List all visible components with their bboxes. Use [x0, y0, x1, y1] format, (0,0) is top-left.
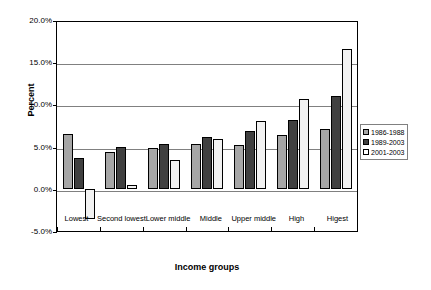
- bar-chart: Percent 20.0%15.0%10.0%5.0%0.0%-5.0% Low…: [0, 0, 431, 290]
- y-axis-tick-mark: [53, 63, 57, 64]
- bar-group: [228, 22, 271, 231]
- x-axis-category-label: Higest: [317, 214, 358, 228]
- x-axis-category-label: High: [276, 214, 317, 228]
- bar-group: [186, 22, 229, 231]
- legend-item[interactable]: 1989-2003: [363, 137, 404, 147]
- legend-item[interactable]: 1986-1988: [363, 127, 404, 137]
- bar-2-4: [256, 121, 266, 189]
- bar-group: [57, 22, 100, 231]
- bar-0-2: [148, 148, 158, 189]
- bar-group: [143, 22, 186, 231]
- x-axis-title: Income groups: [56, 262, 358, 272]
- bar-1-2: [159, 144, 169, 189]
- bar-0-5: [277, 135, 287, 189]
- bar-2-3: [213, 139, 223, 189]
- legend-swatch-icon: [363, 149, 369, 155]
- y-axis-tick-mark: [53, 148, 57, 149]
- y-axis-tick-mark: [53, 190, 57, 191]
- legend-label: 2001-2003: [371, 148, 404, 157]
- legend-swatch-icon: [363, 129, 369, 135]
- bar-0-0: [63, 134, 73, 189]
- y-axis-tick-label: 0.0%: [0, 186, 52, 194]
- bar-0-6: [320, 129, 330, 189]
- y-axis-tick-label: 5.0%: [0, 144, 52, 152]
- bar-group: [314, 22, 357, 231]
- bar-1-3: [202, 137, 212, 188]
- bar-1-6: [331, 96, 341, 188]
- bar-1-0: [74, 158, 84, 189]
- bar-group: [271, 22, 314, 231]
- bar-1-5: [288, 120, 298, 189]
- bars-layer: [57, 22, 357, 231]
- plot-area: [56, 21, 358, 232]
- legend-label: 1986-1988: [371, 128, 404, 137]
- y-axis-tick-label: 15.0%: [0, 59, 52, 67]
- x-axis-category-label: Middle: [190, 214, 231, 228]
- legend-label: 1989-2003: [371, 138, 404, 147]
- bar-2-5: [299, 99, 309, 189]
- bar-0-1: [105, 152, 115, 189]
- x-axis-category-label: Lower middle: [146, 214, 191, 228]
- bar-2-1: [127, 185, 137, 188]
- bar-2-6: [342, 49, 352, 189]
- bar-2-2: [170, 160, 180, 189]
- bar-group: [100, 22, 143, 231]
- y-axis-tick-mark: [53, 21, 57, 22]
- y-axis-tick-label: 20.0%: [0, 17, 52, 25]
- legend-swatch-icon: [363, 139, 369, 145]
- bar-0-4: [234, 145, 244, 189]
- y-axis-tick-label: 10.0%: [0, 101, 52, 109]
- bar-1-1: [116, 147, 126, 188]
- y-axis-tick-mark: [53, 232, 57, 233]
- x-axis-category-label: Lowest: [56, 214, 97, 228]
- y-axis-tick-label: -5.0%: [0, 228, 52, 236]
- bar-0-3: [191, 144, 201, 189]
- legend-item[interactable]: 2001-2003: [363, 147, 404, 157]
- bar-1-4: [245, 131, 255, 189]
- legend: 1986-19881989-20032001-2003: [360, 124, 408, 160]
- x-axis-category-labels: LowestSecond lowestLower middleMiddleUpp…: [56, 214, 358, 228]
- x-axis-category-label: Second lowest: [97, 214, 146, 228]
- x-axis-category-label: Upper middle: [231, 214, 276, 228]
- y-axis-tick-mark: [53, 105, 57, 106]
